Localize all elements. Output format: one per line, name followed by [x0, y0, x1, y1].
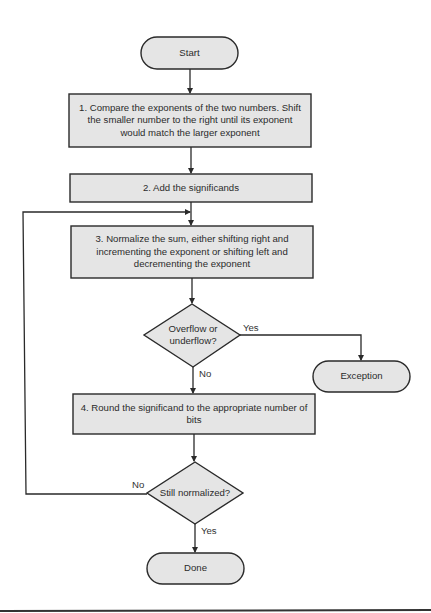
- step4-label: 4. Round the significand to the appropri…: [80, 394, 308, 434]
- done-label: Done: [147, 553, 244, 584]
- step3-label: 3. Normalize the sum, either shifting ri…: [80, 226, 304, 278]
- start-label: Start: [141, 37, 238, 69]
- decision2-no-label: No: [132, 479, 144, 490]
- edge-decision1-exception: [240, 335, 361, 360]
- bottom-rule: [0, 610, 431, 611]
- decision2-label: Still normalized?: [145, 485, 245, 501]
- exception-label: Exception: [313, 361, 410, 392]
- decision2-yes-label: Yes: [201, 525, 217, 536]
- step1-label: 1. Compare the exponents of the two numb…: [74, 94, 306, 147]
- flowchart-canvas: [0, 0, 431, 613]
- decision1-yes-label: Yes: [243, 322, 259, 333]
- decision1-no-label: No: [199, 368, 211, 379]
- decision1-label: Overflow or underflow?: [160, 320, 226, 350]
- step2-label: 2. Add the significands: [70, 174, 312, 202]
